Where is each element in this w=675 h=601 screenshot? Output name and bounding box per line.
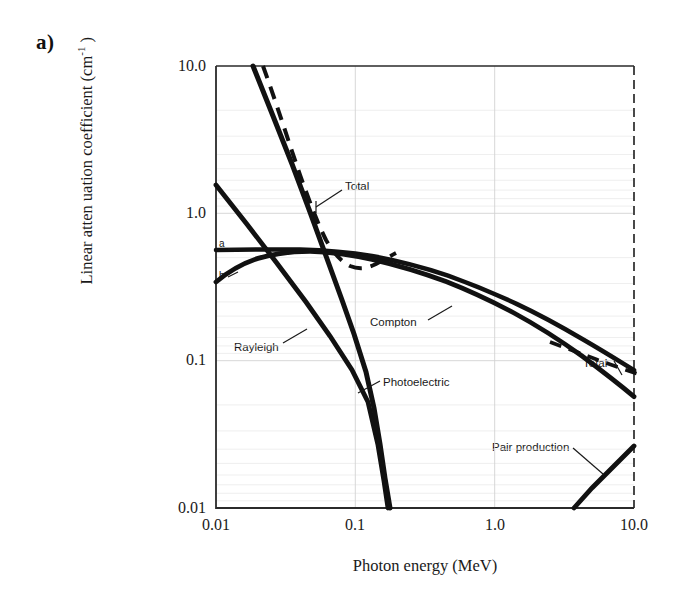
figure-panel-a: a) Linear atten uation coefficient (cm-1… — [0, 0, 675, 601]
series-pair-production — [574, 446, 634, 508]
leader-compton — [428, 306, 452, 320]
grid-minor — [216, 110, 634, 501]
plot-canvas — [0, 0, 675, 601]
leader-pair-production — [573, 448, 603, 474]
series-total-low — [263, 66, 396, 268]
series-rayleigh — [216, 185, 388, 508]
annotation-leaders — [228, 190, 622, 474]
series-compton-b — [216, 251, 634, 396]
leader-rayleigh — [283, 329, 307, 343]
series-photoelectric — [253, 66, 390, 508]
